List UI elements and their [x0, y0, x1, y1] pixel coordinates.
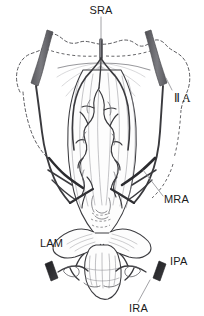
label-lam: LAM — [40, 237, 63, 249]
label-sra: SRA — [89, 4, 113, 16]
label-mra: MRA — [164, 193, 190, 205]
anatomical-figure: SRA Ⅱ A MRA LAM IPA IRA — [0, 0, 204, 316]
internal-pudendal-artery-stump-left — [45, 261, 58, 281]
internal-pudendal-artery-stump-right — [153, 261, 166, 281]
label-iia: Ⅱ A — [174, 92, 191, 104]
leader-iia — [166, 78, 172, 90]
leader-ira — [138, 280, 150, 302]
label-ira: IRA — [129, 302, 148, 314]
label-ipa: IPA — [170, 255, 188, 267]
rectal-arterial-supply-diagram: SRA Ⅱ A MRA LAM IPA IRA — [0, 0, 204, 316]
leader-mra — [143, 170, 163, 196]
anal-canal — [85, 245, 121, 299]
